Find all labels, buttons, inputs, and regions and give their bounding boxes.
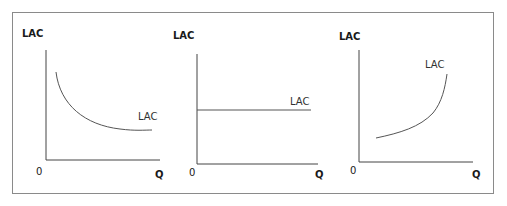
y-axis-label: LAC — [173, 31, 194, 41]
panel-increasing — [359, 50, 473, 162]
y-axis-label: LAC — [22, 29, 43, 39]
panel-constant — [197, 54, 318, 164]
lac-curve-increasing — [376, 74, 447, 138]
y-axis-label: LAC — [339, 32, 360, 42]
x-axis-label: Q — [315, 170, 324, 180]
origin-label: 0 — [350, 166, 356, 176]
curve-label: LAC — [425, 60, 444, 70]
origin-label: 0 — [189, 168, 195, 178]
x-axis-label: Q — [472, 170, 481, 180]
origin-label: 0 — [36, 167, 42, 177]
panel-decreasing — [46, 50, 160, 160]
curve-label: LAC — [290, 97, 309, 107]
x-axis-label: Q — [155, 170, 164, 180]
diagram-canvas — [0, 0, 507, 206]
curve-label: LAC — [138, 112, 157, 122]
